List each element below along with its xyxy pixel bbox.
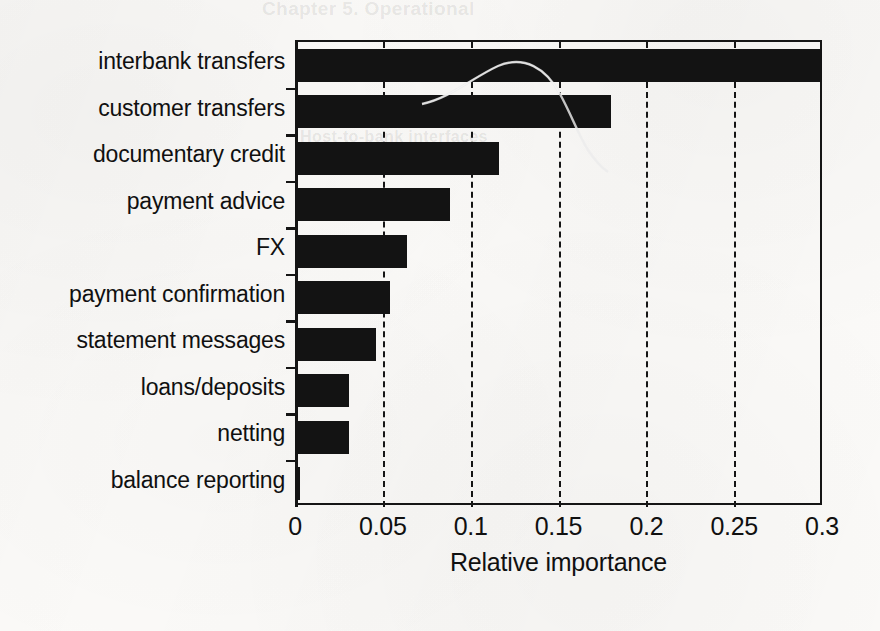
y-axis-tick bbox=[286, 320, 295, 323]
gridline-0-2 bbox=[646, 42, 648, 507]
bar bbox=[295, 49, 822, 82]
y-axis-tick bbox=[286, 181, 295, 184]
gridline-0-25 bbox=[734, 42, 736, 507]
bar bbox=[295, 95, 611, 128]
y-axis-tick bbox=[286, 460, 295, 463]
bar bbox=[295, 281, 390, 314]
bar bbox=[295, 235, 407, 268]
y-axis-tick bbox=[286, 274, 295, 277]
bar bbox=[295, 328, 376, 361]
x-axis-title: Relative importance bbox=[295, 548, 822, 577]
bar bbox=[295, 142, 499, 175]
x-tick-label: 0.1 bbox=[454, 512, 488, 541]
x-tick-label: 0.2 bbox=[629, 512, 663, 541]
y-axis-tick bbox=[286, 367, 295, 370]
category-label: customer transfers bbox=[98, 95, 285, 122]
y-axis-tick bbox=[286, 134, 295, 137]
y-axis-tick bbox=[286, 227, 295, 230]
bar-chart-figure: Chapter 5. Operational 5. Application Mo… bbox=[0, 0, 880, 631]
bar bbox=[295, 421, 349, 454]
x-tick-label: 0 bbox=[288, 512, 302, 541]
category-label: documentary credit bbox=[93, 141, 285, 168]
category-label: balance reporting bbox=[111, 467, 285, 494]
category-label: statement messages bbox=[76, 327, 285, 354]
bar bbox=[295, 188, 450, 221]
category-label: loans/deposits bbox=[141, 374, 285, 401]
bar bbox=[295, 374, 349, 407]
bar bbox=[295, 467, 300, 500]
ghost-text-line-1: Chapter 5. Operational bbox=[262, 0, 475, 20]
x-tick-label: 0.3 bbox=[805, 512, 839, 541]
plot-area bbox=[295, 40, 822, 505]
category-label: FX bbox=[256, 234, 285, 261]
y-axis-tick bbox=[286, 88, 295, 91]
y-axis-tick bbox=[286, 413, 295, 416]
x-tick-label: 0.15 bbox=[535, 512, 582, 541]
x-tick-label: 0.25 bbox=[710, 512, 757, 541]
category-label: payment confirmation bbox=[69, 281, 285, 308]
x-tick-label: 0.05 bbox=[359, 512, 406, 541]
category-label: netting bbox=[217, 420, 285, 447]
category-label: interbank transfers bbox=[98, 48, 285, 75]
category-label: payment advice bbox=[127, 188, 285, 215]
